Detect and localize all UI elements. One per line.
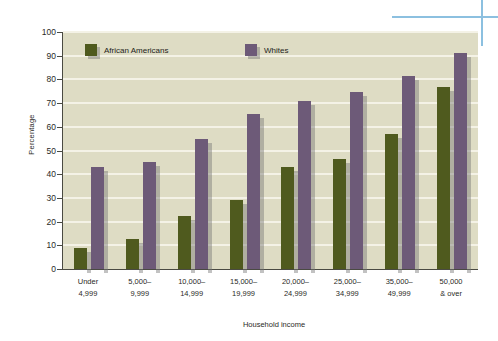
- bar: [281, 167, 294, 269]
- bar-body: [143, 162, 156, 269]
- x-category-label-line: 10,000–: [166, 276, 218, 288]
- bar-body: [195, 139, 208, 269]
- x-category-label: 25,000–34,999: [321, 276, 373, 299]
- x-category-label: 35,000–49,999: [373, 276, 425, 299]
- bar-shadow: [208, 143, 212, 273]
- x-category-label: 15,000–19,999: [218, 276, 270, 299]
- y-tick-mark: [57, 198, 62, 199]
- bar-body: [385, 134, 398, 269]
- x-category-label: 50,000& over: [425, 276, 477, 299]
- bar: [143, 162, 156, 269]
- y-tick-label: 100: [30, 28, 56, 37]
- x-category-label-line: & over: [425, 288, 477, 300]
- bar: [247, 114, 260, 269]
- bar-body: [91, 167, 104, 269]
- bar: [126, 239, 139, 269]
- y-tick-label: 70: [30, 99, 56, 108]
- y-tick-label: 40: [30, 170, 56, 179]
- y-tick-label: 20: [30, 217, 56, 226]
- bar: [402, 76, 415, 269]
- bar: [385, 134, 398, 269]
- bar-body: [247, 114, 260, 269]
- bar-body: [333, 159, 346, 269]
- y-tick-mark: [57, 56, 62, 57]
- y-tick-mark: [57, 79, 62, 80]
- x-category-label-line: 24,999: [270, 288, 322, 300]
- bar-shadow: [363, 96, 367, 273]
- bar: [178, 216, 191, 269]
- x-category-label-line: 14,999: [166, 288, 218, 300]
- y-tick-mark: [57, 151, 62, 152]
- bar-shadow: [311, 105, 315, 273]
- y-tick-label: 50: [30, 146, 56, 155]
- x-category-label: 5,000–9,999: [114, 276, 166, 299]
- bar: [230, 200, 243, 269]
- y-tick-label: 10: [30, 241, 56, 250]
- bar: [195, 139, 208, 269]
- bar: [74, 248, 87, 269]
- header-rule-vertical: [481, 0, 483, 46]
- x-category-label-line: 50,000: [425, 276, 477, 288]
- bar-shadow: [104, 171, 108, 273]
- y-tick-label: 60: [30, 123, 56, 132]
- bar-body: [126, 239, 139, 269]
- y-tick-mark: [57, 222, 62, 223]
- x-category-label-line: Under: [62, 276, 114, 288]
- x-category-label-line: 49,999: [373, 288, 425, 300]
- y-tick-label: 80: [30, 75, 56, 84]
- x-category-label: 20,000–24,999: [270, 276, 322, 299]
- bar-body: [74, 248, 87, 269]
- bar-body: [281, 167, 294, 269]
- y-tick-mark: [57, 127, 62, 128]
- bar: [333, 159, 346, 269]
- bar-body: [230, 200, 243, 269]
- y-tick-label: 30: [30, 194, 56, 203]
- plot-area: African AmericansWhites: [62, 32, 478, 270]
- bar-body: [454, 53, 467, 269]
- bar-shadow: [260, 118, 264, 273]
- x-category-label-line: 19,999: [218, 288, 270, 300]
- x-category-label-line: 35,000–: [373, 276, 425, 288]
- x-category-label-line: 4,999: [62, 288, 114, 300]
- bar-body: [178, 216, 191, 269]
- y-tick-label: 0: [30, 265, 56, 274]
- y-tick-mark: [57, 269, 62, 270]
- bar: [350, 92, 363, 269]
- y-tick-mark: [57, 32, 62, 33]
- bar-body: [350, 92, 363, 269]
- x-axis-category-labels: Under4,9995,000–9,99910,000–14,99915,000…: [62, 276, 477, 310]
- bar-shadow: [467, 57, 471, 273]
- x-category-label: Under4,999: [62, 276, 114, 299]
- y-axis-tick-labels: 0102030405060708090100: [26, 32, 56, 269]
- bar: [454, 53, 467, 269]
- x-axis-title: Household income: [0, 320, 498, 329]
- bar-body: [402, 76, 415, 269]
- x-category-label-line: 34,999: [321, 288, 373, 300]
- chart-figure: Percentage 0102030405060708090100 Africa…: [0, 0, 498, 341]
- x-category-label-line: 5,000–: [114, 276, 166, 288]
- bar: [437, 87, 450, 269]
- x-category-label-line: 25,000–: [321, 276, 373, 288]
- y-tick-mark: [57, 245, 62, 246]
- x-category-label-line: 20,000–: [270, 276, 322, 288]
- y-tick-mark: [57, 174, 62, 175]
- x-category-label-line: 15,000–: [218, 276, 270, 288]
- bar-body: [437, 87, 450, 269]
- bar-shadow: [156, 166, 160, 273]
- x-category-label: 10,000–14,999: [166, 276, 218, 299]
- bar: [298, 101, 311, 269]
- bar-shadow: [415, 80, 419, 273]
- x-category-label-line: 9,999: [114, 288, 166, 300]
- bar-body: [298, 101, 311, 269]
- y-tick-label: 90: [30, 51, 56, 60]
- bar: [91, 167, 104, 269]
- y-tick-mark: [57, 103, 62, 104]
- bars-layer: [63, 32, 478, 269]
